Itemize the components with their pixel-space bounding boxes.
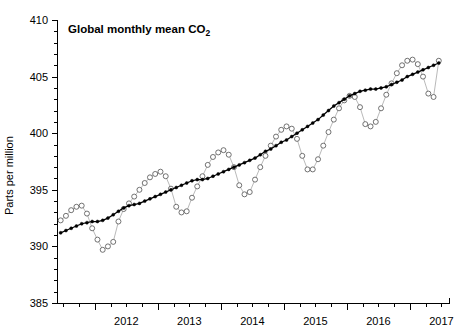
x-tick-label: 2012: [114, 315, 138, 327]
data-point: [394, 71, 399, 76]
data-point: [390, 83, 393, 86]
data-point: [253, 177, 258, 182]
data-point: [75, 225, 78, 228]
axes-group: [58, 20, 450, 304]
data-point: [290, 135, 293, 138]
chart-title: Global monthly mean CO2: [68, 23, 210, 38]
data-point: [305, 167, 310, 172]
data-point: [405, 58, 410, 63]
data-point: [59, 231, 62, 234]
data-point: [201, 178, 204, 181]
data-point: [327, 109, 330, 112]
data-point: [222, 170, 225, 173]
data-point: [158, 169, 163, 174]
data-point: [227, 168, 230, 171]
data-point: [164, 191, 167, 194]
data-point: [111, 239, 116, 244]
data-point: [359, 90, 362, 93]
data-point: [311, 122, 314, 125]
data-point: [284, 124, 289, 129]
data-point: [132, 194, 137, 199]
data-point: [163, 174, 168, 179]
chart-title-subscript: 2: [205, 28, 210, 38]
data-point: [406, 75, 409, 78]
series-trend: [59, 62, 440, 235]
data-point: [395, 81, 398, 84]
data-point: [353, 92, 356, 95]
x-tick-label: 2013: [177, 315, 201, 327]
y-tick-label: 405: [30, 71, 48, 83]
data-point: [174, 204, 179, 209]
data-point: [159, 193, 162, 196]
data-point: [184, 209, 189, 214]
data-point: [147, 175, 152, 180]
data-point: [373, 119, 378, 124]
data-point: [58, 218, 63, 223]
y-axis-tick-labels: 385390395400405410: [30, 14, 48, 309]
series-monthly-mean: [58, 57, 441, 252]
data-point: [380, 86, 383, 89]
axis-spines: [58, 20, 450, 304]
chart-title-main: Global monthly mean CO: [68, 23, 205, 35]
data-point: [254, 157, 257, 160]
data-point: [196, 178, 199, 181]
data-point: [106, 217, 109, 220]
data-point: [364, 89, 367, 92]
data-point: [437, 62, 440, 65]
data-point: [243, 161, 246, 164]
data-point: [179, 210, 184, 215]
data-point: [338, 101, 341, 104]
x-tick-label: 2016: [366, 315, 390, 327]
data-point: [169, 188, 172, 191]
data-point: [142, 181, 147, 186]
data-point: [289, 126, 294, 131]
data-point: [91, 220, 94, 223]
y-tick-label: 385: [30, 297, 48, 309]
chart-canvas: 385390395400405410 201220132014201520162…: [0, 0, 464, 332]
data-point: [211, 175, 214, 178]
data-point: [306, 125, 309, 128]
data-point: [217, 172, 220, 175]
data-point: [237, 183, 242, 188]
data-point: [175, 186, 178, 189]
data-point: [411, 73, 414, 76]
data-point: [280, 141, 283, 144]
y-tick-label: 390: [30, 240, 48, 252]
data-point: [321, 143, 326, 148]
data-point: [216, 150, 221, 155]
data-point: [322, 114, 325, 117]
data-point: [294, 136, 299, 141]
data-point: [85, 221, 88, 224]
data-point: [138, 202, 141, 205]
data-point: [127, 204, 130, 207]
data-point: [105, 244, 110, 249]
y-tick-label: 395: [30, 184, 48, 196]
data-point: [427, 66, 430, 69]
data-point: [69, 208, 74, 213]
data-point: [226, 152, 231, 157]
data-point: [180, 184, 183, 187]
data-point: [358, 105, 363, 110]
data-point: [369, 88, 372, 91]
co2-chart-figure: 385390395400405410 201220132014201520162…: [0, 0, 464, 332]
data-point: [247, 190, 252, 195]
data-point: [116, 219, 121, 224]
data-point: [206, 177, 209, 180]
data-point: [195, 184, 200, 189]
data-point: [242, 192, 247, 197]
x-axis-ticks: [64, 304, 442, 310]
data-point: [153, 171, 158, 176]
data-point: [248, 159, 251, 162]
data-point: [148, 197, 151, 200]
data-point: [133, 203, 136, 206]
data-point: [431, 94, 436, 99]
data-point: [326, 130, 331, 135]
data-point: [363, 122, 368, 127]
data-point: [275, 144, 278, 147]
x-axis-tick-labels: 201220132014201520162017: [114, 315, 454, 327]
data-point: [422, 68, 425, 71]
data-point: [190, 179, 193, 182]
data-point: [317, 118, 320, 121]
y-axis-ticks: [52, 21, 58, 304]
data-point: [263, 153, 268, 158]
